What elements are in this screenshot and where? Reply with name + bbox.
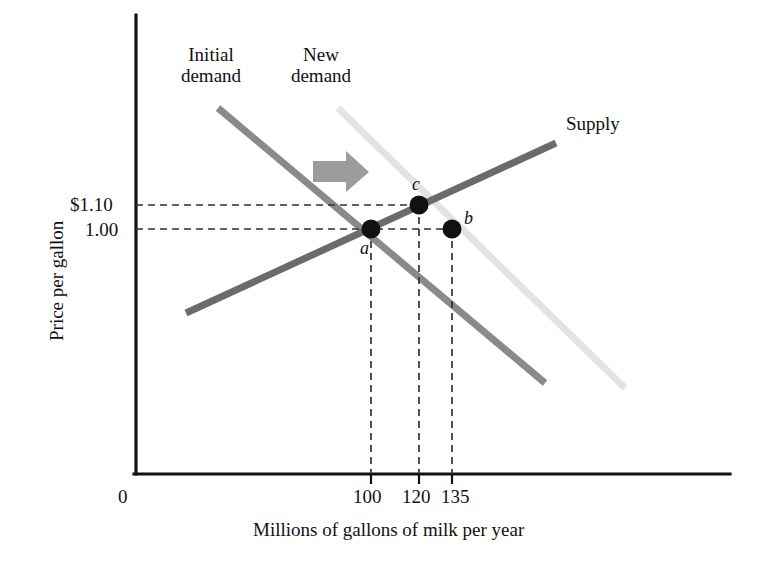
x-tick-label-120: 120: [402, 486, 431, 507]
chart-canvas: [0, 0, 768, 561]
new-demand-label-line1: New: [303, 44, 339, 65]
x-tick-label-100: 100: [353, 486, 382, 507]
point-c-label: c: [412, 174, 420, 194]
dashed-guides-horizontal: [136, 205, 452, 229]
initial-demand-label: Initial demand: [156, 44, 266, 87]
y-tick-label-100: 1.00: [85, 219, 118, 240]
supply-label: Supply: [566, 113, 620, 134]
initial-demand-label-line1: Initial: [188, 44, 233, 65]
point-c-marker: [410, 196, 429, 215]
supply-demand-figure: Initial demand New demand Supply a c b $…: [0, 0, 768, 561]
point-b-label: b: [464, 208, 473, 228]
y-axis-title: Price per gallon: [46, 221, 67, 341]
initial-demand-label-line2: demand: [156, 65, 266, 86]
x-tick-label-135: 135: [441, 486, 470, 507]
x-axis-title: Millions of gallons of milk per year: [253, 519, 524, 540]
y-tick-label-110: $1.10: [70, 194, 113, 215]
point-a-marker: [362, 220, 381, 239]
new-demand-label-line2: demand: [266, 65, 376, 86]
origin-label: 0: [118, 486, 128, 507]
point-b-marker: [443, 220, 462, 239]
demand-shift-arrow-icon: [313, 151, 369, 192]
point-a-label: a: [360, 238, 369, 258]
new-demand-label: New demand: [266, 44, 376, 87]
